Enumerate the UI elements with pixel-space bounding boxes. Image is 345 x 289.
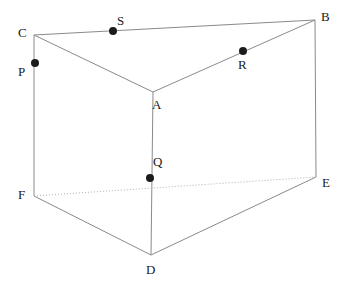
point-label-s: S: [117, 14, 124, 27]
point-dot-p: [31, 59, 39, 67]
vertex-label-e: E: [322, 176, 330, 189]
edge-d-e: [151, 177, 316, 255]
point-dot-r: [239, 47, 247, 55]
edges-group: [34, 20, 316, 255]
edge-c-b: [34, 20, 315, 35]
point-label-p: P: [18, 65, 25, 78]
vertex-label-f: F: [18, 188, 25, 201]
edge-c-a: [34, 35, 153, 92]
point-label-q: Q: [153, 155, 162, 168]
geometry-figure: ABCDEFPQRS: [0, 0, 345, 289]
edge-f-e: [34, 177, 316, 196]
point-dot-q: [146, 174, 154, 182]
edge-b-e: [315, 20, 316, 177]
vertex-label-b: B: [321, 10, 330, 23]
vertex-label-c: C: [18, 26, 27, 39]
edge-a-d: [151, 92, 153, 255]
vertex-label-d: D: [146, 263, 155, 276]
figure-canvas: [0, 0, 345, 289]
point-label-r: R: [238, 58, 247, 71]
marked-points-group: [31, 27, 247, 182]
edge-a-b: [153, 20, 315, 92]
edge-f-d: [34, 196, 151, 255]
point-dot-s: [109, 27, 117, 35]
vertex-label-a: A: [152, 98, 161, 111]
